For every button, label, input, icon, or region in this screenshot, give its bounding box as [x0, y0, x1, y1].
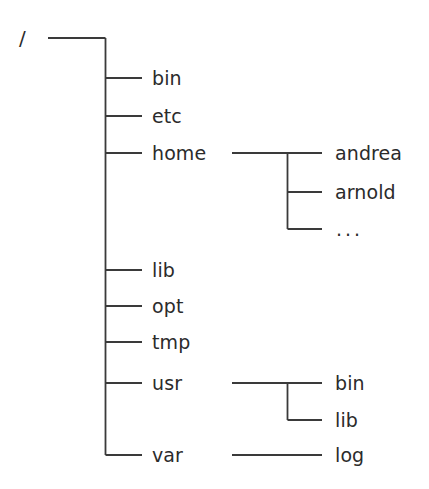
node-home-ellipsis: ... [336, 220, 363, 239]
node-usr-bin: bin [335, 374, 365, 393]
node-usr-lib: lib [335, 411, 358, 430]
node-home-arnold: arnold [335, 183, 396, 202]
node-var: var [152, 446, 183, 465]
node-opt: opt [152, 297, 183, 316]
node-etc: etc [152, 107, 182, 126]
node-lib: lib [152, 261, 175, 280]
node-tmp: tmp [152, 333, 190, 352]
node-home-andrea: andrea [335, 144, 402, 163]
node-root: / [19, 28, 26, 48]
node-usr: usr [152, 374, 182, 393]
node-var-log: log [335, 446, 364, 465]
node-home: home [152, 144, 206, 163]
tree-connector-lines [0, 0, 429, 489]
filesystem-tree-diagram: / bin etc home lib opt tmp usr var andre… [0, 0, 429, 489]
node-bin: bin [152, 69, 182, 88]
